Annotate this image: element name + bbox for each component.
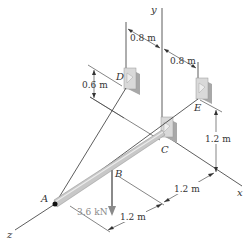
- dim-label: 1.2 m: [174, 184, 200, 194]
- boom-ac: A B: [40, 130, 165, 207]
- dim-label: 1.2 m: [120, 212, 146, 222]
- support-d: D: [115, 68, 140, 95]
- load-label: 3.6 kN: [77, 207, 108, 217]
- x-axis-label: x: [237, 187, 243, 198]
- diagram-canvas: y x z 0.8 m 0.8 m 0.6 m: [0, 0, 247, 246]
- dim-top-left: 0.8 m: [128, 29, 160, 48]
- dim-cb: 1.2 m: [164, 173, 214, 202]
- dim-label: 1.2 m: [205, 134, 231, 144]
- point-b-label: B: [114, 168, 122, 179]
- point-e-label: E: [193, 102, 202, 113]
- cable-ad: [55, 88, 126, 204]
- z-axis-label: z: [6, 229, 13, 240]
- dim-top-right: 0.8 m: [164, 49, 196, 68]
- dim-label: 0.6 m: [82, 80, 108, 90]
- point-d-label: D: [115, 71, 124, 82]
- arrow-down-icon: [108, 206, 116, 216]
- y-axis: y: [150, 4, 162, 124]
- dim-label: 0.8 m: [170, 56, 196, 66]
- z-axis: z: [6, 204, 55, 240]
- point-c-label: C: [161, 144, 169, 155]
- b-extension-line: [118, 176, 164, 205]
- y-axis-label: y: [150, 4, 157, 15]
- dim-ba: 1.2 m: [108, 204, 162, 230]
- point-a-label: A: [40, 193, 48, 204]
- dim-label: 0.8 m: [130, 33, 156, 43]
- support-e: E: [193, 78, 212, 113]
- floor-reference-line: [90, 97, 160, 140]
- point-a-marker: [53, 202, 58, 207]
